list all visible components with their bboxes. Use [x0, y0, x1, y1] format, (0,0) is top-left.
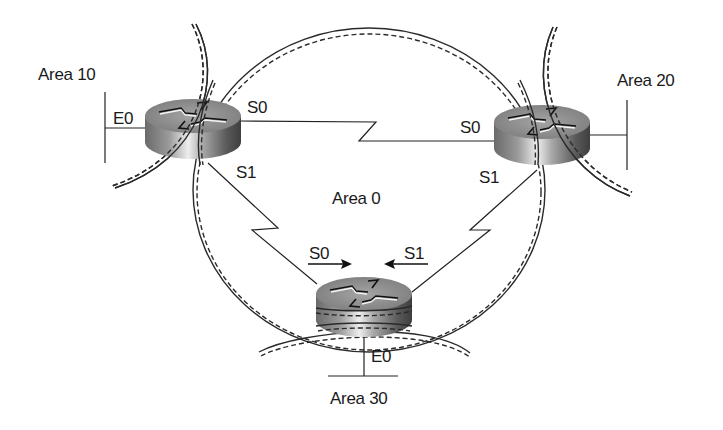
router-area10-icon[interactable] [145, 99, 241, 159]
area-0-label: Area 0 [332, 189, 380, 208]
area-10-label: Area 10 [38, 65, 95, 84]
router-area20-s0-label: S0 [460, 118, 480, 137]
router-area20-s1-label: S1 [479, 168, 499, 187]
area-30-label: Area 30 [330, 389, 387, 408]
router-area10-s0-label: S0 [247, 98, 267, 117]
serial-link-s0-s0 [240, 121, 495, 141]
area-20-label: Area 20 [617, 71, 674, 90]
serial-link-s1-s1 [412, 170, 537, 292]
ethernet-area-20 [590, 100, 627, 170]
router-area10-e0-label: E0 [113, 109, 133, 128]
router-area30-icon[interactable] [316, 277, 412, 337]
router-area10-s1-label: S1 [236, 163, 256, 182]
router-area20-icon[interactable] [494, 105, 590, 165]
router-area30-e0-label: E0 [371, 347, 391, 366]
router-area30-s0-label: S0 [309, 244, 329, 263]
ospf-area-diagram: Area 10 Area 20 Area 0 Area 30 E0 S0 S1 … [0, 0, 723, 430]
router-area30-s1-label: S1 [404, 244, 424, 263]
serial-link-s1-s0 [208, 163, 317, 284]
